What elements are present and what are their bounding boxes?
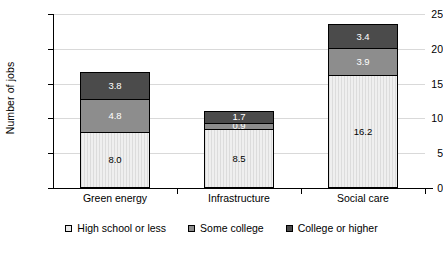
bar-segment[interactable]: 4.8 [80, 99, 150, 132]
legend-item[interactable]: College or higher [286, 222, 378, 234]
x-axis-separator [301, 188, 302, 194]
bar-value-label: 3.9 [356, 57, 369, 67]
x-axis-category-label: Social care [301, 192, 425, 204]
stacked-bar-chart: Number of jobs 8.04.83.88.50.91.716.23.9… [0, 0, 443, 253]
legend-label: College or higher [298, 222, 378, 234]
bar-value-label: 1.7 [232, 112, 245, 122]
legend-swatch-icon [65, 225, 72, 232]
bar-segment[interactable]: 1.7 [204, 111, 274, 123]
bar-segment[interactable]: 16.2 [328, 75, 398, 188]
y-axis-tick-label: 10 [397, 112, 443, 124]
legend-label: Some college [200, 222, 264, 234]
x-axis-category-label: Green energy [53, 192, 177, 204]
bar-segment[interactable]: 3.8 [80, 72, 150, 98]
y-axis-title-text: Number of jobs [4, 62, 16, 135]
bar-value-label: 3.8 [108, 81, 121, 91]
y-axis-tick-mark [48, 14, 53, 15]
gridline [53, 14, 425, 15]
y-axis-tick-mark [48, 153, 53, 154]
bar-group[interactable]: 16.23.93.4 [328, 24, 398, 188]
legend-label: High school or less [77, 222, 166, 234]
y-axis-tick-label: 15 [397, 78, 443, 90]
plot-area: 8.04.83.88.50.91.716.23.93.4 [53, 14, 425, 188]
bar-group[interactable]: 8.04.83.8 [80, 72, 150, 188]
bar-value-label: 8.5 [232, 154, 245, 164]
bar-value-label: 3.4 [356, 32, 369, 42]
bar-segment[interactable]: 0.9 [204, 123, 274, 129]
y-axis-tick-label: 25 [397, 8, 443, 20]
legend-swatch-icon [286, 225, 293, 232]
bar-segment[interactable]: 8.0 [80, 132, 150, 188]
x-axis-line [53, 188, 433, 189]
y-axis-title: Number of jobs [0, 0, 20, 196]
y-axis-tick-mark [48, 49, 53, 50]
bar-value-label: 8.0 [108, 155, 121, 165]
bar-segment[interactable]: 8.5 [204, 129, 274, 188]
y-axis-tick-mark [48, 118, 53, 119]
x-axis-category-label: Infrastructure [177, 192, 301, 204]
bar-group[interactable]: 8.50.91.7 [204, 111, 274, 188]
y-axis-tick-mark [48, 188, 53, 189]
chart-legend: High school or lessSome collegeCollege o… [0, 222, 443, 234]
bar-segment[interactable]: 3.9 [328, 48, 398, 75]
bar-value-label: 0.9 [232, 123, 245, 129]
y-axis-line [53, 14, 54, 189]
y-axis-tick-label: 20 [397, 43, 443, 55]
legend-item[interactable]: High school or less [65, 222, 166, 234]
legend-swatch-icon [188, 225, 195, 232]
bar-segment[interactable]: 3.4 [328, 24, 398, 48]
y-axis-tick-mark [48, 84, 53, 85]
legend-item[interactable]: Some college [188, 222, 264, 234]
bar-value-label: 16.2 [354, 127, 373, 137]
bar-value-label: 4.8 [108, 111, 121, 121]
x-axis-separator [425, 188, 426, 194]
x-axis-separator [177, 188, 178, 194]
y-axis-tick-label: 5 [397, 147, 443, 159]
